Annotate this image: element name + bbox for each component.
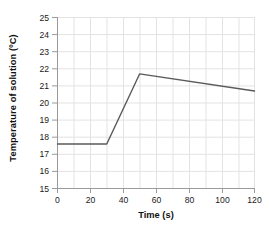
y-axis-ticks [52,18,57,189]
y-tick-label: 16 [31,167,49,176]
x-tick-label: 120 [242,196,268,205]
y-tick-label: 25 [31,14,49,23]
y-tick-label: 18 [31,133,49,142]
y-tick-label: 20 [31,99,49,108]
x-tick-label: 80 [177,196,203,205]
x-axis-ticks [58,189,255,194]
x-tick-label: 0 [45,196,71,205]
temperature-time-line-chart: Temperature of solution (ºC) [0,0,269,233]
x-tick-label: 60 [144,196,170,205]
x-tick-label: 20 [78,196,104,205]
y-tick-label: 21 [31,82,49,91]
x-tick-label: 100 [210,196,236,205]
y-tick-label: 24 [31,31,49,40]
x-axis-title: Time (s) [57,210,255,220]
y-tick-label: 22 [31,65,49,74]
y-tick-label: 15 [31,185,49,194]
y-tick-label: 19 [31,116,49,125]
y-tick-label: 17 [31,150,49,159]
x-tick-label: 40 [111,196,137,205]
y-tick-label: 23 [31,48,49,57]
